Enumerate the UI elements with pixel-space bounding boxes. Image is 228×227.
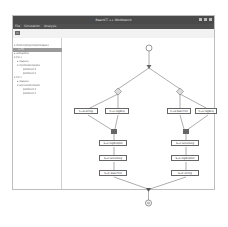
join-node[interactable] [146, 188, 151, 192]
diagram-end-overlay [0, 0, 228, 227]
final-node-inner [147, 201, 150, 204]
